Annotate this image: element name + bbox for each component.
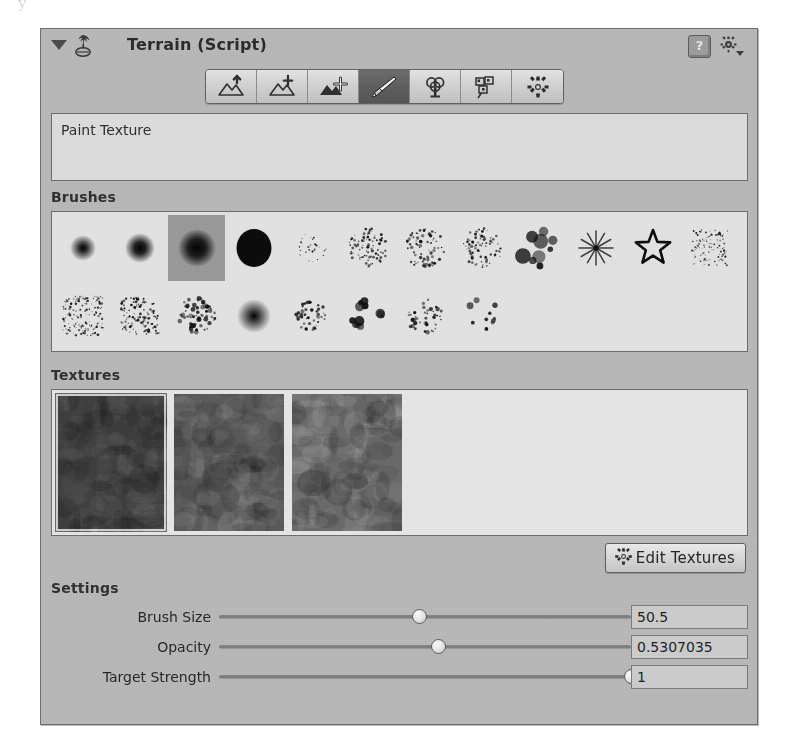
gear-dropdown-icon[interactable] — [719, 35, 743, 57]
settings-section-label: Settings — [51, 580, 119, 596]
brushes-section-label: Brushes — [51, 189, 116, 205]
caret-down-icon — [736, 51, 744, 56]
tool-place-trees[interactable] — [410, 70, 461, 103]
slider-row-target-strength: Target Strength 1 — [41, 666, 757, 690]
terrain-texture-3[interactable] — [292, 394, 402, 531]
brush-streak-vertical[interactable] — [111, 283, 168, 349]
page-ghost-text: y — [18, 0, 27, 12]
brush-hard-solid[interactable] — [225, 215, 282, 281]
slider-label: Brush Size — [41, 609, 211, 625]
textures-section-label: Textures — [51, 367, 120, 383]
help-book-icon[interactable]: ? — [688, 35, 711, 58]
brush-grid-panel[interactable] — [51, 211, 748, 352]
brush-row — [54, 283, 510, 349]
slider-brush-size[interactable] — [219, 606, 631, 628]
brush-splatter-dense[interactable] — [339, 215, 396, 281]
brush-smudge-dark[interactable] — [168, 283, 225, 349]
gear-icon — [614, 547, 633, 570]
brush-spatter-small[interactable] — [282, 283, 339, 349]
edit-textures-label: Edit Textures — [636, 549, 735, 567]
texture-grain — [58, 396, 164, 529]
brush-cloud-ring[interactable] — [396, 215, 453, 281]
terrain-tool-toolbar[interactable] — [205, 69, 564, 104]
component-header: Terrain (Script) ? — [41, 29, 757, 63]
value-field-target-strength[interactable]: 1 — [631, 665, 748, 689]
tool-paint-height[interactable] — [257, 70, 308, 103]
slider-track[interactable] — [219, 675, 631, 679]
brush-grain-heavy[interactable] — [54, 283, 111, 349]
brush-sparse-dots[interactable] — [453, 283, 510, 349]
slider-row-brush-size: Brush Size 50.5 — [41, 606, 757, 630]
value-field-opacity[interactable]: 0.5307035 — [631, 635, 748, 659]
tool-paint-details[interactable] — [461, 70, 512, 103]
brush-star-outline[interactable] — [624, 215, 681, 281]
brush-soft-small[interactable] — [54, 215, 111, 281]
tool-raise-lower-terrain[interactable] — [206, 70, 257, 103]
brush-dots-large[interactable] — [339, 283, 396, 349]
terrain-texture-1[interactable] — [56, 394, 166, 531]
slider-label: Opacity — [41, 639, 211, 655]
slider-opacity[interactable] — [219, 636, 631, 658]
brush-star-burst[interactable] — [567, 215, 624, 281]
terrain-script-icon — [70, 33, 96, 59]
value-field-brush-size[interactable]: 50.5 — [631, 605, 748, 629]
brush-soft-medium[interactable] — [111, 215, 168, 281]
tool-paint-texture[interactable] — [359, 70, 410, 103]
slider-knob[interactable] — [431, 639, 446, 654]
texture-grid-panel[interactable] — [51, 389, 748, 536]
slider-row-opacity: Opacity 0.5307035 — [41, 636, 757, 660]
helpbox-text: Paint Texture — [61, 122, 151, 138]
brush-speckle-fine[interactable] — [282, 215, 339, 281]
texture-grain — [292, 394, 402, 531]
brush-blob-cluster[interactable] — [510, 215, 567, 281]
page-title: Terrain (Script) — [127, 35, 267, 54]
slider-label: Target Strength — [41, 669, 211, 685]
brush-noise-square[interactable] — [681, 215, 738, 281]
texture-grain — [174, 394, 284, 531]
slider-target-strength[interactable] — [219, 666, 631, 688]
brush-blur-blob[interactable] — [225, 283, 282, 349]
tool-smooth-height[interactable] — [308, 70, 359, 103]
tool-terrain-settings[interactable] — [512, 70, 563, 103]
terrain-inspector-panel: Terrain (Script) ? — [40, 28, 758, 725]
terrain-texture-2[interactable] — [174, 394, 284, 531]
slider-track[interactable] — [219, 645, 631, 649]
triangle-down-icon[interactable] — [51, 40, 67, 50]
brush-row — [54, 215, 738, 281]
slider-knob[interactable] — [412, 609, 427, 624]
paint-texture-helpbox: Paint Texture — [51, 113, 748, 181]
brush-splatter-rough[interactable] — [453, 215, 510, 281]
brush-hard-large[interactable] — [168, 215, 225, 281]
brush-scatter-ring[interactable] — [396, 283, 453, 349]
edit-textures-button[interactable]: Edit Textures — [605, 543, 746, 573]
